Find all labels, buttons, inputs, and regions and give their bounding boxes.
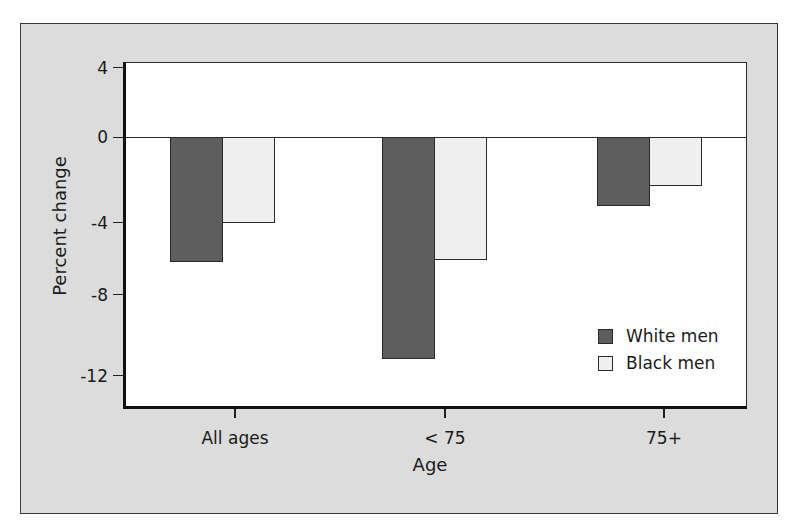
y-tick-label: -4 <box>68 213 108 233</box>
y-tick-label: -12 <box>68 366 108 386</box>
bar-white-men-2 <box>597 137 650 205</box>
legend-label-white-men: White men <box>626 326 719 346</box>
x-tick <box>444 409 446 418</box>
y-axis-title: Percent change <box>49 126 71 326</box>
y-tick <box>113 67 123 69</box>
legend-item-white-men: White men <box>598 326 719 346</box>
bar-black-men-0 <box>222 137 275 222</box>
x-tick-label: All ages <box>165 428 305 448</box>
y-tick <box>113 294 123 296</box>
x-tick <box>663 409 665 418</box>
x-axis-title: Age <box>380 455 480 475</box>
bar-white-men-0 <box>170 137 223 262</box>
bar-white-men-1 <box>382 137 435 359</box>
y-tick <box>113 375 123 377</box>
bar-black-men-1 <box>434 137 487 260</box>
y-tick <box>113 222 123 224</box>
x-tick <box>234 409 236 418</box>
y-tick-label: -8 <box>68 285 108 305</box>
y-tick-label: 4 <box>68 58 108 78</box>
bar-black-men-2 <box>649 137 702 186</box>
legend-swatch-black-men <box>598 356 613 371</box>
legend-label-black-men: Black men <box>626 353 715 373</box>
y-tick-label: 0 <box>68 127 108 147</box>
legend-item-black-men: Black men <box>598 353 715 373</box>
x-tick-label: < 75 <box>375 428 515 448</box>
legend-swatch-white-men <box>598 329 613 344</box>
x-tick-label: 75+ <box>594 428 734 448</box>
y-tick <box>113 137 123 139</box>
